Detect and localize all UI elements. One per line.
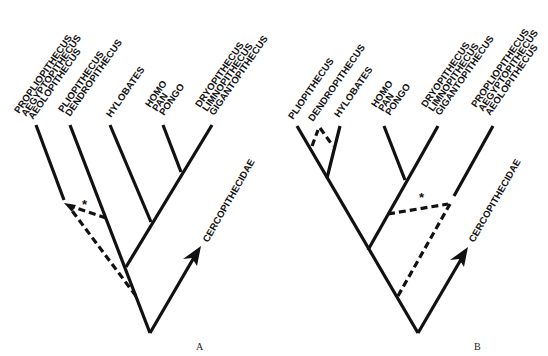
dashed-link-basal (70, 208, 136, 296)
panel-label-b: B (474, 341, 481, 352)
labels-great-apes-a: HOMO PAN PONGO (143, 78, 187, 117)
labels-dryopithecus-group-a: DRYOPITHECUS LIMNOPITHECUS GIGANTOPITHEC… (193, 33, 271, 117)
branch-pliopithecus (297, 126, 418, 333)
dashed-link-basal (398, 204, 450, 296)
panel-b: PLIOPITHECUS DENDROPITHECUS HYLOBATES HO… (286, 26, 541, 352)
uncertain-marker: * (82, 197, 88, 212)
branch-dryopithecus (368, 126, 438, 250)
branch-cercopithecidae (150, 254, 196, 333)
taxon-label: LIMNOPITHECUS (200, 40, 256, 113)
branch-propliopithecus (454, 126, 493, 196)
dashed-link-dendropithecus-right (320, 128, 333, 146)
branch-propliopithecus (36, 125, 64, 200)
branch-homo (384, 126, 405, 180)
phylogeny-figure: PROPLIOPITHECUS AEGYPTOPITHECUS AEOLOPIT… (0, 0, 548, 356)
dashed-link-star (388, 204, 448, 214)
taxon-label-hylobates: HYLOBATES (104, 64, 147, 119)
branch-pliopithecus (70, 125, 150, 333)
taxon-label-cercopithecidae: CERCOPITHECIDAE (466, 156, 523, 244)
branch-hylobates (327, 126, 340, 178)
arrowhead-icon (64, 203, 76, 212)
branch-cercopithecidae (418, 256, 463, 333)
labels-great-apes-b: HOMO PAN PONGO (369, 78, 413, 117)
panel-a: PROPLIOPITHECUS AEGYPTOPITHECUS AEOLOPIT… (12, 32, 271, 352)
uncertain-marker: * (419, 190, 425, 205)
panel-label-a: A (196, 341, 204, 352)
branch-homo (163, 125, 181, 172)
taxon-label-cercopithecidae: CERCOPITHECIDAE (200, 156, 257, 244)
branch-hylobates (110, 125, 151, 222)
labels-propliopithecus-group-b: PROPLIOPITHECUS AEGYPTOPITHECUS AEOLOPIT… (469, 26, 541, 117)
dashed-link-dendropithecus-left (312, 130, 318, 146)
